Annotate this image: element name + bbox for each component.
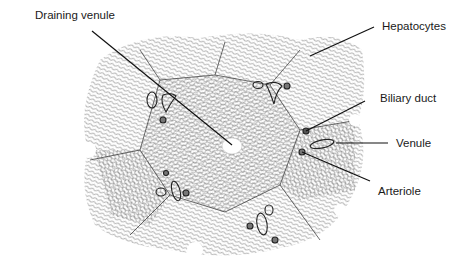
central-vein xyxy=(222,138,242,154)
hepatic-lobule-diagram: Draining venule Hepatocytes Biliary duct… xyxy=(0,0,465,277)
label-venule: Venule xyxy=(396,138,431,150)
label-biliary-duct: Biliary duct xyxy=(380,93,436,105)
label-draining-venule: Draining venule xyxy=(35,10,115,22)
label-arteriole: Arteriole xyxy=(378,186,421,198)
label-hepatocytes: Hepatocytes xyxy=(382,21,446,33)
